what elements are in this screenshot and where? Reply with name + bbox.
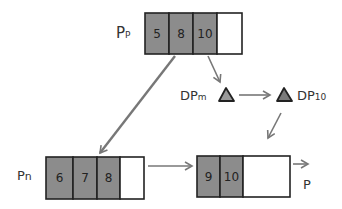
triangle-dp10: [277, 88, 292, 101]
label-pp: PP: [116, 24, 130, 42]
label-dp10: DP10: [297, 88, 326, 103]
label-pp-main: P: [116, 24, 125, 42]
arrow-pp-to-pn: [100, 56, 175, 153]
label-dpm: DPm: [180, 88, 207, 103]
label-pn: Pn: [17, 168, 32, 183]
arrow-dp10-to-p: [268, 113, 281, 138]
arrow-pp-to-dpm: [208, 56, 220, 82]
p-cell-2: 10: [220, 156, 243, 197]
pp-cell-1: 5: [145, 13, 169, 54]
label-pp-sub: P: [125, 30, 130, 40]
label-dpm-main: DP: [180, 88, 198, 103]
pn-cell-2: 7: [73, 157, 97, 199]
label-dpm-sub: m: [198, 92, 207, 102]
pn-cell-1: 6: [46, 157, 73, 199]
label-pn-sub: n: [25, 170, 32, 183]
pp-cell-3: 10: [193, 13, 217, 54]
label-dp10-main: DP: [297, 88, 315, 103]
pn-cell-3: 8: [97, 157, 120, 199]
triangle-dpm: [219, 88, 234, 101]
pp-cell-2: 8: [169, 13, 193, 54]
label-dp10-sub: 10: [315, 92, 326, 102]
label-pn-main: P: [17, 168, 25, 183]
p-cell-1: 9: [197, 156, 220, 197]
label-p: P: [303, 177, 311, 192]
